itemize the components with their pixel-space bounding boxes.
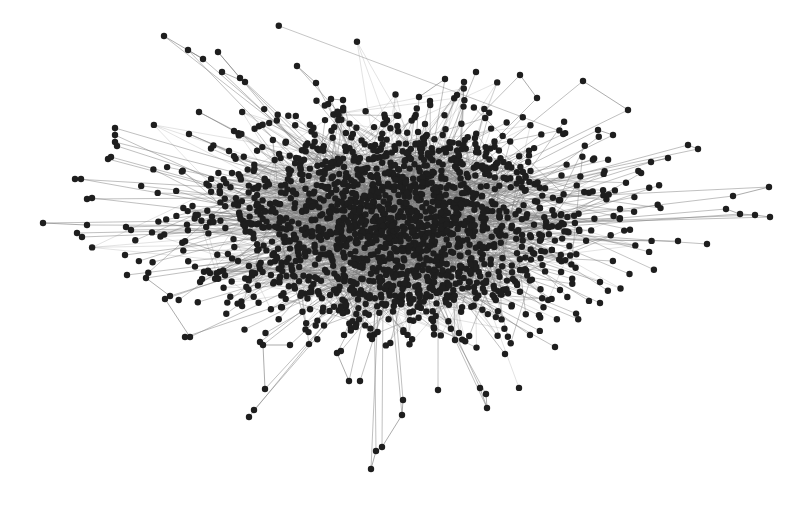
graph-node bbox=[245, 287, 251, 293]
graph-node bbox=[198, 218, 204, 224]
graph-node bbox=[480, 244, 486, 250]
graph-node bbox=[340, 236, 346, 242]
graph-node bbox=[427, 155, 433, 161]
graph-node bbox=[623, 180, 629, 186]
graph-node bbox=[262, 386, 268, 392]
graph-node bbox=[456, 269, 462, 275]
graph-node bbox=[379, 444, 385, 450]
graph-node bbox=[538, 131, 544, 137]
graph-node bbox=[241, 326, 247, 332]
graph-node bbox=[180, 205, 186, 211]
graph-node bbox=[421, 162, 427, 168]
graph-node bbox=[436, 194, 442, 200]
graph-node bbox=[498, 240, 504, 246]
graph-node bbox=[393, 298, 399, 304]
graph-node bbox=[496, 213, 502, 219]
graph-node bbox=[287, 245, 293, 251]
graph-node bbox=[208, 189, 214, 195]
graph-node bbox=[569, 276, 575, 282]
graph-node bbox=[612, 187, 618, 193]
graph-node bbox=[561, 119, 567, 125]
graph-node bbox=[230, 236, 236, 242]
graph-node bbox=[530, 250, 536, 256]
graph-node bbox=[315, 234, 321, 240]
graph-node bbox=[411, 114, 417, 120]
graph-node bbox=[149, 259, 155, 265]
graph-node bbox=[471, 284, 477, 290]
graph-node bbox=[440, 161, 446, 167]
graph-node bbox=[328, 96, 334, 102]
graph-node bbox=[320, 245, 326, 251]
graph-node bbox=[386, 206, 392, 212]
graph-node bbox=[314, 336, 320, 342]
graph-node bbox=[504, 215, 510, 221]
graph-node bbox=[138, 183, 144, 189]
graph-node bbox=[516, 385, 522, 391]
graph-node bbox=[665, 155, 671, 161]
graph-edge bbox=[297, 66, 316, 83]
network-graph bbox=[0, 0, 808, 506]
graph-node bbox=[385, 169, 391, 175]
graph-node bbox=[255, 300, 261, 306]
graph-node bbox=[453, 206, 459, 212]
graph-node bbox=[483, 280, 489, 286]
graph-node bbox=[523, 214, 529, 220]
graph-node bbox=[311, 242, 317, 248]
graph-node bbox=[580, 78, 586, 84]
graph-node bbox=[284, 238, 290, 244]
graph-node bbox=[233, 195, 239, 201]
graph-node bbox=[330, 173, 336, 179]
graph-node bbox=[452, 337, 458, 343]
graph-node bbox=[379, 141, 385, 147]
graph-node bbox=[540, 304, 546, 310]
graph-node bbox=[489, 208, 495, 214]
graph-node bbox=[424, 291, 430, 297]
graph-node bbox=[410, 176, 416, 182]
graph-node bbox=[381, 153, 387, 159]
graph-node bbox=[200, 56, 206, 62]
graph-node bbox=[443, 222, 449, 228]
graph-node bbox=[572, 220, 578, 226]
graph-node bbox=[383, 240, 389, 246]
graph-node bbox=[423, 257, 429, 263]
graph-node bbox=[246, 263, 252, 269]
graph-node bbox=[465, 284, 471, 290]
graph-node bbox=[403, 150, 409, 156]
graph-node bbox=[307, 306, 313, 312]
graph-node bbox=[334, 274, 340, 280]
graph-node bbox=[442, 76, 448, 82]
graph-node bbox=[394, 112, 400, 118]
graph-node bbox=[275, 246, 281, 252]
graph-node bbox=[345, 219, 351, 225]
graph-edge bbox=[199, 112, 234, 131]
graph-node bbox=[451, 185, 457, 191]
graph-node bbox=[184, 221, 190, 227]
graph-node bbox=[626, 271, 632, 277]
graph-node bbox=[617, 206, 623, 212]
graph-node bbox=[401, 214, 407, 220]
graph-node bbox=[379, 160, 385, 166]
graph-node bbox=[89, 244, 95, 250]
graph-node bbox=[424, 132, 430, 138]
graph-node bbox=[343, 243, 349, 249]
graph-node bbox=[424, 222, 430, 228]
graph-node bbox=[375, 255, 381, 261]
graph-node bbox=[494, 79, 500, 85]
graph-node bbox=[349, 318, 355, 324]
graph-node bbox=[347, 199, 353, 205]
graph-node bbox=[433, 213, 439, 219]
graph-node bbox=[416, 246, 422, 252]
graph-node bbox=[522, 188, 528, 194]
graph-node bbox=[347, 235, 353, 241]
graph-node bbox=[489, 234, 495, 240]
graph-node bbox=[479, 307, 485, 313]
graph-node bbox=[268, 272, 274, 278]
graph-node bbox=[505, 334, 511, 340]
graph-node bbox=[380, 223, 386, 229]
graph-node bbox=[417, 292, 423, 298]
graph-node bbox=[229, 255, 235, 261]
graph-node bbox=[508, 184, 514, 190]
graph-node bbox=[546, 231, 552, 237]
graph-node bbox=[473, 264, 479, 270]
graph-node bbox=[494, 333, 500, 339]
